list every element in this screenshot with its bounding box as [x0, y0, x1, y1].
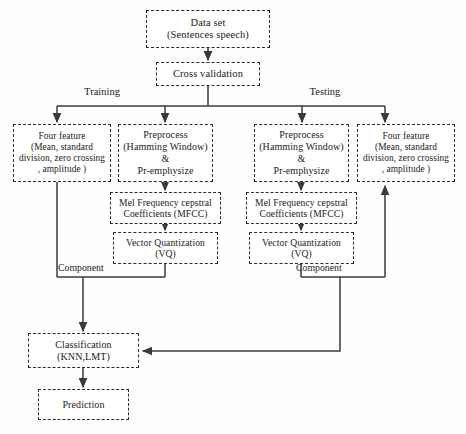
flowchart-canvas: Data set (Sentences speech) Cross valida… — [0, 0, 466, 434]
node-four-feature-testing[interactable]: Four feature (Mean, standard division, z… — [357, 124, 455, 182]
node-cross-validation-line1: Cross validation — [173, 68, 243, 80]
edge-component-right-down-and-left — [143, 277, 340, 351]
node-mfcc-testing-line1: Mel Frequency cepstral — [255, 197, 348, 208]
node-preprocess-training-line1: Preprocess — [143, 129, 187, 141]
node-mfcc-training[interactable]: Mel Frequency cepstral Coefficients (MFC… — [110, 192, 221, 224]
node-vq-testing-line1: Vector Quantization — [262, 237, 341, 248]
node-four-feature-testing-line4: , amplitude ) — [382, 164, 431, 175]
node-four-feature-training-line2: (Mean, standard — [31, 142, 93, 153]
node-preprocess-training-line4: Pr-emphysize — [138, 165, 194, 177]
node-vq-training-line2: (VQ) — [155, 248, 176, 259]
node-mfcc-testing[interactable]: Mel Frequency cepstral Coefficients (MFC… — [246, 192, 357, 224]
node-mfcc-training-line2: Coefficients (MFCC) — [123, 208, 207, 219]
node-preprocess-testing-line4: Pr-emphysize — [274, 165, 330, 177]
node-four-feature-training-line1: Four feature — [39, 131, 86, 142]
node-mfcc-training-line1: Mel Frequency cepstral — [119, 197, 212, 208]
node-vq-training-line1: Vector Quantization — [126, 237, 205, 248]
node-data-set-line2: (Sentences speech) — [167, 29, 249, 41]
node-preprocess-training-line2: (Hamming Window) — [123, 141, 208, 153]
node-four-feature-testing-line2: (Mean, standard — [375, 142, 437, 153]
edge-label-component-testing: Component — [296, 262, 370, 273]
node-preprocess-training-line3: & — [162, 153, 170, 165]
node-preprocess-testing[interactable]: Preprocess (Hamming Window) & Pr-emphysi… — [254, 124, 349, 182]
node-prediction[interactable]: Prediction — [38, 389, 129, 420]
edge-label-testing: Testing — [290, 86, 360, 97]
node-four-feature-testing-line1: Four feature — [383, 131, 430, 142]
node-mfcc-testing-line2: Coefficients (MFCC) — [259, 208, 343, 219]
node-vq-testing-line2: (VQ) — [291, 248, 312, 259]
node-four-feature-training-line4: , amplitude ) — [38, 164, 87, 175]
node-cross-validation[interactable]: Cross validation — [156, 62, 260, 86]
node-four-feature-training-line3: division, zero crossing — [19, 153, 105, 164]
node-classification[interactable]: Classification (KNN,LMT) — [28, 333, 139, 368]
edge-label-component-training: Component — [58, 262, 132, 273]
node-preprocess-testing-line3: & — [298, 153, 306, 165]
node-data-set[interactable]: Data set (Sentences speech) — [146, 10, 270, 48]
node-classification-line2: (KNN,LMT) — [57, 351, 110, 363]
node-prediction-line1: Prediction — [62, 399, 104, 411]
node-vector-quantization-training[interactable]: Vector Quantization (VQ) — [113, 232, 218, 264]
node-preprocess-testing-line1: Preprocess — [279, 129, 323, 141]
node-four-feature-testing-line3: division, zero crossing — [363, 153, 449, 164]
node-vector-quantization-testing[interactable]: Vector Quantization (VQ) — [249, 232, 354, 264]
node-preprocess-testing-line2: (Hamming Window) — [259, 141, 344, 153]
node-preprocess-training[interactable]: Preprocess (Hamming Window) & Pr-emphysi… — [118, 124, 213, 182]
node-four-feature-training[interactable]: Four feature (Mean, standard division, z… — [13, 124, 111, 182]
edge-label-training: Training — [62, 86, 142, 97]
node-data-set-line1: Data set — [191, 17, 226, 29]
node-classification-line1: Classification — [55, 339, 111, 351]
